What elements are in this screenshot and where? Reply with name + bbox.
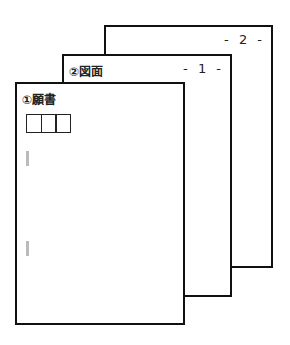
page-title: ②図面	[69, 62, 103, 79]
stamp-boxes	[26, 114, 70, 133]
binding-mark	[26, 151, 29, 166]
page-title: ①願書	[22, 90, 56, 107]
page-number: - 1 -	[183, 61, 224, 76]
page-application-sheet: ①願書	[15, 82, 185, 325]
binding-mark	[26, 241, 29, 256]
stamp-box	[55, 114, 71, 133]
page-number: - 2 -	[224, 32, 265, 47]
